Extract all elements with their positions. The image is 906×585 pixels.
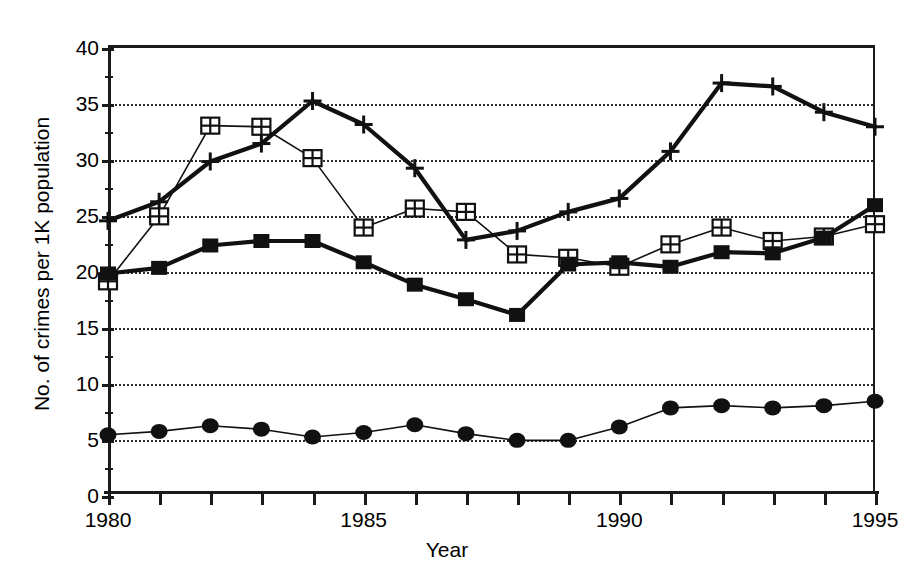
series-filled-circle-series (100, 394, 884, 448)
chart-figure: No. of crimes per 1K population 05101520… (0, 0, 906, 585)
series-plus-series (99, 74, 884, 249)
x-axis-title: Year (0, 538, 906, 562)
series-filled-square-series (100, 198, 883, 322)
data-series-layer (0, 0, 906, 585)
x-axis-title-text: Year (426, 538, 468, 562)
series-open-square-series (99, 118, 884, 290)
